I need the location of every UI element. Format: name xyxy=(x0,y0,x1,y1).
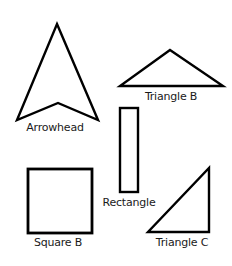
rectangle-shape xyxy=(120,108,138,192)
rectangle-label: Rectangle xyxy=(103,196,156,209)
triangle-c-shape xyxy=(148,168,209,232)
arrowhead-shape xyxy=(17,24,98,120)
triangle-b-label: Triangle B xyxy=(145,90,197,103)
triangle-b-shape xyxy=(120,50,223,86)
arrowhead-label: Arrowhead xyxy=(26,121,84,134)
square-b-label: Square B xyxy=(34,236,82,249)
triangle-c-label: Triangle C xyxy=(156,236,208,249)
square-b-shape xyxy=(28,169,92,233)
